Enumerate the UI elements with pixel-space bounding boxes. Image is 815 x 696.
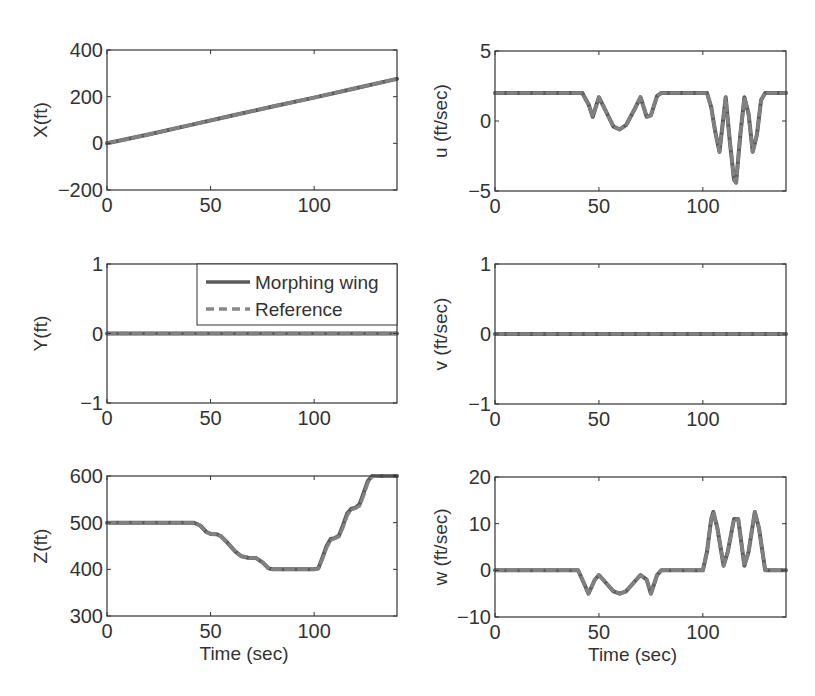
x-tick-label: 100 [297,620,330,642]
x-tick-label: 0 [101,620,112,642]
y-tick-label: 400 [70,39,103,61]
y-axis-label: u (ft/sec) [430,84,451,158]
series-reference [107,476,397,569]
subplot-u-velocity: 050100−505u (ft/sec) [430,40,786,217]
subplot-w-velocity: 050100−1001020w (ft/sec)Time (sec) [430,466,786,665]
y-tick-label: 400 [70,558,103,580]
y-tick-label: −1 [468,393,491,415]
x-tick-label: 100 [686,621,719,643]
series-reference [495,93,786,183]
x-tick-label: 50 [199,407,221,429]
x-tick-label: 100 [686,195,719,217]
figure: 050100−2000200400X(ft) 050100−505u (ft/s… [0,0,815,696]
x-tick-label: 0 [489,195,500,217]
y-tick-label: −200 [58,179,103,201]
x-axis-label: Time (sec) [199,643,288,664]
x-tick-label: 50 [588,408,610,430]
legend-label-reference: Reference [255,299,343,320]
legend-label-morphing-wing: Morphing wing [255,272,379,293]
y-tick-label: 1 [480,253,491,275]
y-tick-label: 20 [469,466,491,488]
y-tick-label: 5 [480,40,491,62]
y-tick-label: 10 [469,513,491,535]
subplot-x-position: 050100−2000200400X(ft) [30,39,397,216]
axes-box [107,50,397,190]
y-tick-label: 0 [480,110,491,132]
x-tick-label: 50 [588,195,610,217]
y-tick-label: 0 [92,323,103,345]
x-axis-label: Time (sec) [588,644,677,665]
x-tick-label: 0 [489,408,500,430]
y-tick-label: 0 [92,132,103,154]
axes-box [107,476,397,616]
subplot-v-velocity: 050100−101v (ft/sec) [430,253,786,430]
y-tick-label: 600 [70,465,103,487]
y-tick-label: 200 [70,86,103,108]
series-reference [107,79,397,143]
x-tick-label: 100 [297,194,330,216]
subplot-z-position: 050100300400500600Z(ft)Time (sec) [30,465,397,664]
x-tick-label: 50 [199,620,221,642]
legend: Morphing wing Reference [197,264,397,325]
x-tick-label: 50 [588,621,610,643]
y-tick-label: −10 [457,606,491,628]
y-axis-label: X(ft) [30,102,51,138]
y-tick-label: 1 [92,253,103,275]
y-axis-label: w (ft/sec) [430,508,451,586]
x-tick-label: 0 [101,407,112,429]
y-tick-label: 300 [70,605,103,627]
y-axis-label: Y(ft) [30,316,51,352]
x-tick-label: 100 [297,407,330,429]
x-tick-label: 0 [489,621,500,643]
x-tick-label: 0 [101,194,112,216]
y-tick-label: 0 [480,323,491,345]
y-tick-label: −1 [80,392,103,414]
y-axis-label: v (ft/sec) [430,298,451,371]
y-tick-label: −5 [468,180,491,202]
x-tick-label: 50 [199,194,221,216]
y-axis-label: Z(ft) [30,529,51,564]
series-reference [495,512,786,594]
y-tick-label: 0 [480,559,491,581]
x-tick-label: 100 [686,408,719,430]
y-tick-label: 500 [70,512,103,534]
